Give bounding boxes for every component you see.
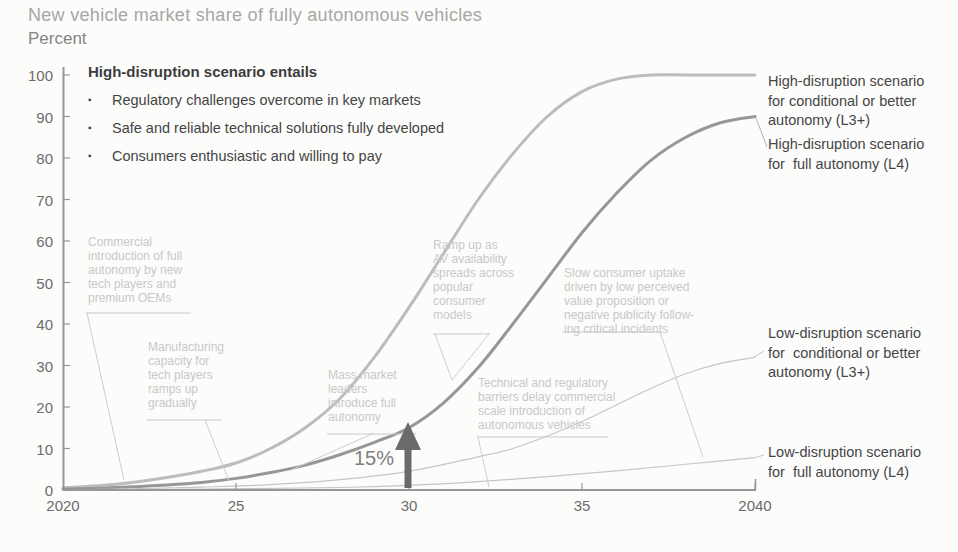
y-axis-tick-label: 80 <box>0 150 53 167</box>
leader-slow-uptake <box>660 332 703 457</box>
annotation-manufacturing-capacity: Manufacturing capacity for tech players … <box>148 340 224 410</box>
info-box-heading: High-disruption scenario entails <box>88 63 508 80</box>
y-axis-tick-label: 30 <box>0 358 53 375</box>
y-axis-tick-label: 90 <box>0 109 53 126</box>
bullet-text: Regulatory challenges overcome in key ma… <box>112 92 421 108</box>
bullet-square-icon: ▪ <box>88 120 112 136</box>
x-axis-tick-label: 25 <box>206 497 266 514</box>
leader-ramp-up-left <box>435 334 452 380</box>
annotation-ramp-up: Ramp up as AV availability spreads acros… <box>433 238 514 322</box>
bullet-square-icon: ▪ <box>88 92 112 108</box>
chart-page: New vehicle market share of fully autono… <box>0 0 958 552</box>
bullet-square-icon: ▪ <box>88 148 112 164</box>
y-axis-tick-label: 50 <box>0 275 53 292</box>
y-axis-tick-label: 60 <box>0 233 53 250</box>
curve-label-low-l3plus: Low-disruption scenario for conditional … <box>768 324 921 383</box>
y-axis-tick-label: 10 <box>0 441 53 458</box>
high-disruption-info-box: High-disruption scenario entails ▪Regula… <box>88 63 508 176</box>
leader-manufacturing <box>205 420 229 481</box>
y-axis-tick-label: 100 <box>0 67 53 84</box>
y-axis-tick-label: 0 <box>0 482 53 499</box>
leader-commercial <box>87 313 124 480</box>
y-axis-tick-label: 20 <box>0 399 53 416</box>
arrow-stem <box>405 446 412 488</box>
arrow-head <box>395 422 421 450</box>
y-axis-tick-label: 40 <box>0 316 53 333</box>
info-box-bullet-list: ▪Regulatory challenges overcome in key m… <box>88 92 508 164</box>
y-axis-tick-label: 70 <box>0 192 53 209</box>
x-axis-tick-label: 2020 <box>33 497 93 514</box>
leader-ramp-up-right <box>452 334 489 380</box>
connector-low-l3plus <box>754 351 764 357</box>
x-axis-tick-label: 2040 <box>725 497 785 514</box>
curve-label-connectors <box>754 118 767 458</box>
x-axis-tick-label: 35 <box>552 497 612 514</box>
curve-label-high-l3plus: High-disruption scenario for conditional… <box>768 72 924 131</box>
bullet-item: ▪Regulatory challenges overcome in key m… <box>88 92 508 108</box>
fifteen-percent-callout: 15% <box>354 447 394 470</box>
annotation-mass-market: Mass market leaders introduce full auton… <box>328 368 397 424</box>
annotation-technical-barriers: Technical and regulatory barriers delay … <box>478 376 615 432</box>
x-axis-tick-label: 30 <box>379 497 439 514</box>
curve-label-low-l4: Low-disruption scenario for full autonom… <box>768 443 921 482</box>
leader-technical <box>478 437 489 487</box>
bullet-item: ▪Safe and reliable technical solutions f… <box>88 120 508 136</box>
bullet-text: Consumers enthusiastic and willing to pa… <box>112 148 382 164</box>
bullet-text: Safe and reliable technical solutions fu… <box>112 120 444 136</box>
annotation-slow-uptake: Slow consumer uptake driven by low perce… <box>564 266 694 336</box>
connector-high-l4 <box>756 118 767 147</box>
curve-label-high-l4: High-disruption scenario for full autono… <box>768 135 924 174</box>
annotation-commercial-introduction: Commercial introduction of full autonomy… <box>88 235 182 305</box>
bullet-item: ▪Consumers enthusiastic and willing to p… <box>88 148 508 164</box>
connector-low-l4 <box>754 455 764 458</box>
